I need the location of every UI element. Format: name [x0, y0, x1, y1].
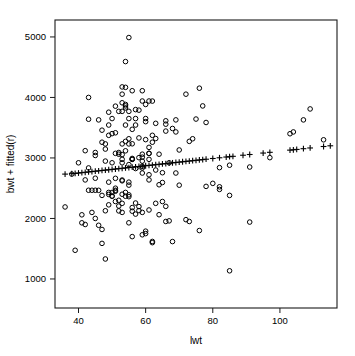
fitted-point-plus	[301, 146, 307, 152]
fitted-point-plus	[321, 144, 327, 150]
x-tick-label: 40	[73, 315, 84, 326]
fitted-point-plus	[217, 155, 223, 161]
fitted-point-plus	[327, 143, 333, 149]
data-point-circle	[147, 145, 152, 150]
data-point-circle	[194, 117, 199, 122]
data-point-circle	[204, 184, 209, 189]
y-axis-title: bwt + fitted(r)	[5, 135, 16, 194]
data-point-circle	[184, 92, 189, 97]
data-point-circle	[190, 136, 195, 141]
data-point-circle	[137, 136, 142, 141]
data-point-circle	[73, 248, 78, 253]
data-point-circle	[147, 172, 152, 177]
data-point-circle	[177, 148, 182, 153]
data-point-circle	[143, 116, 148, 121]
data-point-circle	[163, 119, 168, 124]
fitted-point-plus	[267, 149, 273, 155]
data-point-circle	[86, 117, 91, 122]
data-point-circle	[153, 121, 158, 126]
data-point-circle	[120, 85, 125, 90]
data-point-circle	[120, 201, 125, 206]
data-point-circle	[210, 181, 215, 186]
data-point-circle	[174, 118, 179, 123]
data-point-circle	[150, 133, 155, 138]
data-point-circle	[160, 199, 165, 204]
data-point-circle	[163, 204, 168, 209]
x-tick-label: 100	[272, 315, 288, 326]
data-point-circle	[153, 168, 158, 173]
data-point-circle	[127, 180, 132, 185]
data-point-circle	[123, 123, 128, 128]
y-tick-label: 1000	[25, 273, 46, 284]
data-point-circle	[163, 129, 168, 134]
data-point-circle	[106, 180, 111, 185]
data-point-circle	[103, 208, 108, 213]
fitted-point-plus	[307, 145, 313, 151]
data-point-circle	[86, 95, 91, 100]
data-point-circle	[133, 123, 138, 128]
data-point-circle	[301, 118, 306, 123]
fitted-point-plus	[62, 171, 68, 177]
data-point-circle	[83, 178, 88, 183]
data-point-circle	[127, 35, 132, 40]
data-point-circle	[160, 180, 165, 185]
data-point-circle	[96, 223, 101, 228]
data-point-circle	[123, 59, 128, 64]
data-point-circle	[170, 126, 175, 131]
data-point-circle	[100, 241, 105, 246]
data-point-circle	[90, 210, 95, 215]
data-point-circle	[127, 136, 132, 141]
x-tick-label: 80	[207, 315, 218, 326]
data-point-circle	[140, 99, 145, 104]
data-point-circle	[147, 99, 152, 104]
data-point-circle	[100, 193, 105, 198]
plot-canvas: 406080100 10002000300040005000 lwt bwt +…	[0, 0, 355, 356]
data-point-circle	[113, 104, 118, 109]
x-axis-title: lwt	[190, 335, 202, 346]
data-point-circle	[93, 216, 98, 221]
data-point-circle	[268, 155, 273, 160]
data-point-circle	[76, 160, 81, 165]
data-point-circle	[127, 116, 132, 121]
data-point-circle	[103, 159, 108, 164]
data-point-circle	[321, 138, 326, 143]
data-point-circle	[157, 212, 162, 217]
data-point-circle	[123, 149, 128, 154]
data-point-circle	[106, 203, 111, 208]
data-point-circle	[100, 227, 105, 232]
data-point-circle	[106, 123, 111, 128]
plot-frame-box	[55, 20, 337, 308]
data-point-circle	[204, 120, 209, 125]
fitted-point-plus	[294, 147, 300, 153]
data-point-circle	[140, 88, 145, 93]
data-point-circle	[147, 208, 152, 213]
x-axis-tick-labels: 406080100	[73, 315, 288, 326]
data-point-circle	[200, 104, 205, 109]
data-point-circle	[147, 151, 152, 156]
data-point-circle	[160, 170, 165, 175]
scatter-plot-figure: 406080100 10002000300040005000 lwt bwt +…	[0, 0, 355, 356]
data-point-circle	[80, 213, 85, 218]
data-point-circle	[140, 171, 145, 176]
data-point-circle	[197, 86, 202, 91]
data-point-circle	[93, 176, 98, 181]
data-point-circle	[143, 137, 148, 142]
data-point-circle	[130, 234, 135, 239]
data-point-circle	[147, 157, 152, 162]
fitted-point-plus	[210, 156, 216, 162]
y-axis-tick-labels: 10002000300040005000	[25, 31, 46, 284]
y-tick-label: 2000	[25, 213, 46, 224]
data-point-circle	[153, 201, 158, 206]
fitted-point-plus	[203, 156, 209, 162]
data-point-circle	[110, 116, 115, 121]
data-point-circle	[217, 165, 222, 170]
data-point-circle	[130, 88, 135, 93]
data-point-circle	[96, 188, 101, 193]
data-point-circle	[170, 239, 175, 244]
data-point-circle	[197, 228, 202, 233]
data-point-circle	[83, 148, 88, 153]
data-point-circle	[96, 118, 101, 123]
data-point-circle	[157, 152, 162, 157]
fitted-point-plus	[247, 152, 253, 158]
data-point-circle	[227, 193, 232, 198]
